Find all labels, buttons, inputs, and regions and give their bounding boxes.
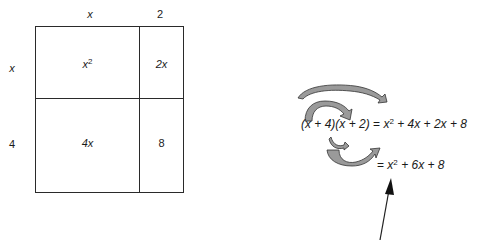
small-loop-arrow-icon xyxy=(329,137,349,150)
equation-equals: = xyxy=(373,117,380,131)
equation-expansion: (x + 4)(x + 2) = x2 + 4x + 2x + 8 xyxy=(301,117,467,131)
equation-lhs: (x + 4)(x + 2) xyxy=(301,117,370,131)
equation-rest: + 4x + 2x + 8 xyxy=(397,117,467,131)
simplified-equals: = xyxy=(377,158,384,172)
simplified-rest: + 6x + 8 xyxy=(401,158,444,172)
outer-curved-arrow-icon xyxy=(298,85,387,103)
combine-curved-arrow-icon xyxy=(327,148,380,166)
simplified-term-exponent: 2 xyxy=(393,158,397,167)
equation-term-exponent: 2 xyxy=(389,117,393,126)
equation-simplified: = x2 + 6x + 8 xyxy=(377,158,445,172)
pointer-arrow-icon xyxy=(380,178,394,240)
